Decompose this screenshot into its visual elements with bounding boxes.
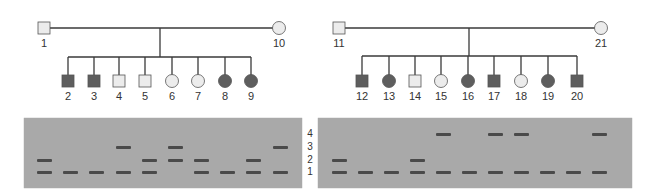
unaffected-female-icon [192, 75, 205, 88]
gel-band [592, 171, 607, 174]
affected-female-icon [462, 75, 475, 88]
gel-band [436, 171, 451, 174]
gel-band [246, 159, 261, 162]
unaffected-female-icon [273, 22, 286, 35]
unaffected-female-icon [166, 75, 179, 88]
gel-band [168, 159, 183, 162]
unaffected-male-icon [409, 75, 421, 87]
gel-band [142, 171, 157, 174]
gel-band [566, 171, 581, 174]
individual-label: 6 [160, 90, 184, 102]
gel-band [142, 159, 157, 162]
individual-label: 10 [267, 37, 291, 49]
individual-label: 18 [509, 90, 533, 102]
unaffected-male-icon [38, 22, 50, 34]
individual-label: 5 [133, 90, 157, 102]
individual-label: 17 [482, 90, 506, 102]
affected-male-icon [88, 75, 100, 87]
unaffected-male-icon [113, 75, 125, 87]
gel-panel [318, 118, 632, 188]
affected-male-icon [488, 75, 500, 87]
individual-label: 8 [213, 90, 237, 102]
gel-band [410, 171, 425, 174]
gel-band [410, 159, 425, 162]
affected-male-icon [62, 75, 74, 87]
individual-label: 11 [327, 37, 351, 49]
individual-label: 14 [403, 90, 427, 102]
individual-label: 2 [56, 90, 80, 102]
individual-label: 13 [377, 90, 401, 102]
gel-band [116, 146, 131, 149]
gel-band [273, 146, 288, 149]
gel-band [514, 171, 529, 174]
gel-band [462, 171, 477, 174]
affected-male-icon [356, 75, 368, 87]
gel-band [488, 171, 503, 174]
gel-band [246, 171, 261, 174]
individual-label: 9 [239, 90, 263, 102]
individual-label: 7 [186, 90, 210, 102]
individual-label: 20 [565, 90, 589, 102]
gel-band [384, 171, 399, 174]
affected-female-icon [245, 75, 258, 88]
pedigree-gel-figure: 110234567891121121314151617181920 4321 [0, 0, 645, 193]
gel-band [37, 171, 52, 174]
gel-band [194, 159, 209, 162]
gel-band [592, 133, 607, 136]
gel-band [514, 133, 529, 136]
gel-band [37, 159, 52, 162]
gel-band [332, 171, 347, 174]
gel-band [273, 171, 288, 174]
individual-label: 19 [536, 90, 560, 102]
affected-male-icon [571, 75, 583, 87]
unaffected-female-icon [435, 75, 448, 88]
affected-female-icon [219, 75, 232, 88]
gel-band [89, 171, 104, 174]
gel-band [358, 171, 373, 174]
gel-band [63, 171, 78, 174]
gel-band [332, 159, 347, 162]
individual-label: 21 [589, 37, 613, 49]
gel-band [194, 171, 209, 174]
individual-label: 1 [32, 37, 56, 49]
individual-label: 4 [107, 90, 131, 102]
unaffected-female-icon [595, 22, 608, 35]
gel-band [436, 133, 451, 136]
unaffected-female-icon [515, 75, 528, 88]
individual-label: 16 [456, 90, 480, 102]
unaffected-male-icon [333, 22, 345, 34]
unaffected-male-icon [139, 75, 151, 87]
gel-panel [24, 118, 302, 188]
gel-band [540, 171, 555, 174]
gel-band [220, 171, 235, 174]
gel-band [116, 171, 131, 174]
band-level-label: 4 [305, 128, 315, 139]
affected-female-icon [542, 75, 555, 88]
band-level-label: 2 [305, 154, 315, 165]
gel-band [168, 146, 183, 149]
band-level-label: 3 [305, 141, 315, 152]
band-level-label: 1 [305, 166, 315, 177]
gel-band [488, 133, 503, 136]
individual-label: 3 [82, 90, 106, 102]
affected-female-icon [383, 75, 396, 88]
individual-label: 12 [350, 90, 374, 102]
individual-label: 15 [429, 90, 453, 102]
